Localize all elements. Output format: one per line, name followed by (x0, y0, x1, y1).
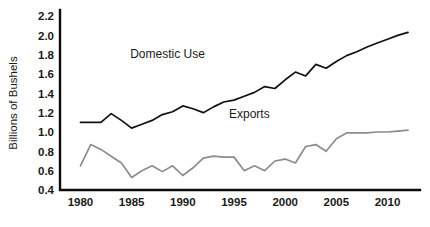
series-label-exports: Exports (229, 107, 270, 121)
x-axis-tick-labels: 1980198519901995200020052010 (68, 196, 401, 208)
y-tick-0.6: 0.6 (38, 165, 54, 177)
y-axis-tick-labels: 0.40.60.81.01.21.41.61.82.02.2 (38, 10, 55, 196)
y-axis-title: Billions of Bushels (7, 56, 19, 150)
series-line-exports (80, 130, 408, 177)
x-tick-2010: 2010 (375, 196, 401, 208)
y-tick-0.4: 0.4 (38, 184, 55, 196)
y-tick-1.4: 1.4 (38, 88, 55, 100)
y-tick-2.2: 2.2 (38, 10, 54, 22)
series-label-domestic-use: Domestic Use (130, 47, 205, 61)
y-tick-1.0: 1.0 (38, 126, 54, 138)
chart-container: 0.40.60.81.01.21.41.61.82.02.2 198019851… (0, 0, 430, 227)
axis-lines (60, 10, 420, 190)
series-annotations: Domestic UseExports (130, 47, 270, 121)
y-tick-1.6: 1.6 (38, 68, 54, 80)
x-tick-1985: 1985 (119, 196, 145, 208)
x-tick-1980: 1980 (68, 196, 94, 208)
x-tick-1990: 1990 (170, 196, 196, 208)
x-tick-1995: 1995 (221, 196, 247, 208)
x-tick-2000: 2000 (272, 196, 298, 208)
y-tick-0.8: 0.8 (38, 146, 55, 158)
x-tick-2005: 2005 (324, 196, 350, 208)
y-tick-2.0: 2.0 (38, 30, 54, 42)
line-chart: 0.40.60.81.01.21.41.61.82.02.2 198019851… (0, 0, 430, 227)
y-tick-1.8: 1.8 (38, 49, 55, 61)
y-tick-1.2: 1.2 (38, 107, 54, 119)
